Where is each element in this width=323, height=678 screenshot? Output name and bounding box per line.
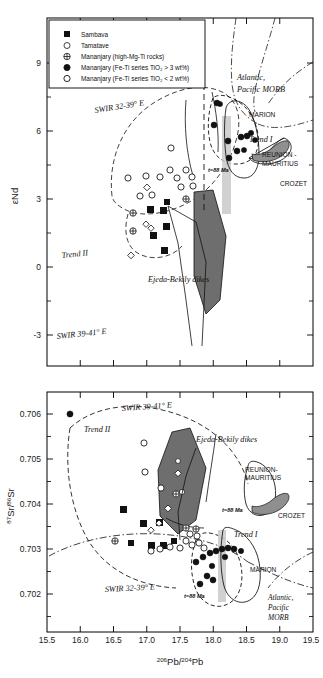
top-y-tick-neg3: -3: [33, 330, 41, 340]
legend-symbol-filled-square: [64, 31, 70, 37]
label-trend-i-top: Trend I: [249, 135, 274, 144]
x-tick-16-0: 16.0: [72, 635, 89, 645]
x-title-main: Pb/: [167, 656, 182, 667]
label-trend-i-bottom: Trend I: [234, 530, 259, 539]
label-reunion-top: REUNION -: [262, 151, 296, 158]
legend-label-mananjary-lo-ti: Mananjary (Fe-Ti series TiO₂ < 2 wt%): [81, 75, 189, 83]
label-crozet-bottom: CROZET: [278, 512, 305, 519]
top-y-tick-9: 9: [36, 58, 41, 68]
bottom-y-tick-706: 0.706: [20, 409, 42, 419]
figure-container: 9 6 3 0 -3 εNd: [0, 0, 323, 678]
label-crozet-top: CROZET: [280, 180, 307, 187]
top-y-tick-6: 6: [36, 126, 41, 136]
top-y-tick-3: 3: [36, 194, 41, 204]
bottom-y-tick-704: 0.704: [20, 499, 42, 509]
bottom-y-tick-702: 0.702: [20, 589, 42, 599]
age-band-top: [222, 116, 231, 214]
bottom-y-mid: Sr/: [5, 504, 16, 517]
label-age-bottom-2: t=88 Ma: [184, 593, 205, 599]
x-tick-19-5: 19.5: [303, 635, 320, 645]
x-title-tail: Pb: [192, 656, 204, 667]
label-atlantic-bottom: Atlantic,: [267, 593, 293, 602]
canvas-background: [0, 0, 323, 678]
legend-symbol-filled-circle: [64, 64, 70, 70]
label-mauritius-bottom: MAURITIUS: [245, 474, 282, 481]
label-marion-bottom: MARION: [250, 566, 277, 573]
label-age-bottom-1: t=88 Ma: [222, 507, 243, 513]
inclusion-marker-bottom-2: [176, 459, 181, 464]
top-y-axis-title: εNd: [9, 188, 20, 204]
x-tick-17-0: 17.0: [138, 635, 155, 645]
legend-box: Sambava Tamatave Mananjary (high-Mg-Ti r…: [49, 20, 205, 88]
label-mauritius-top: MAURITIUS: [262, 160, 299, 167]
legend-label-mananjary-hi-ti: Mananjary (Fe-Ti series TiO₂ > 3 wt%): [81, 64, 189, 72]
x-tick-19-0: 19.0: [271, 635, 288, 645]
x-tick-17-5: 17.5: [172, 635, 189, 645]
x-tick-16-5: 16.5: [105, 635, 122, 645]
legend-label-tamatave: Tamatave: [81, 42, 109, 49]
x-tick-18-0: 18.0: [205, 635, 222, 645]
x-tick-15-5: 15.5: [39, 635, 56, 645]
label-pacific-morb-top: Pacific MORB: [236, 85, 285, 94]
legend-symbol-crossed-circle: [64, 53, 70, 59]
legend-label-sambava: Sambava: [81, 31, 108, 38]
bottom-y-tail: Sr: [5, 488, 16, 498]
label-reunion-bottom: REUNION-: [245, 466, 278, 473]
label-ejeda-top: Ejeda-Bekily dikes: [147, 275, 209, 284]
label-ejeda-bottom: Ejeda-Bekily dikes: [195, 435, 257, 444]
label-pacific-bottom: Pacific: [267, 603, 290, 612]
label-morb-bottom: MORB: [267, 613, 289, 622]
legend-symbol-open-circle: [64, 75, 70, 81]
x-tick-18-5: 18.5: [238, 635, 255, 645]
x-title-sup-204: 204: [181, 656, 192, 663]
isotope-figure: 9 6 3 0 -3 εNd: [0, 0, 323, 678]
age-band-bottom: [218, 530, 226, 602]
label-age-top: t=88 Ma: [208, 167, 229, 173]
label-trend-ii-bottom: Trend II: [84, 425, 112, 434]
x-title-sup-206: 206: [157, 656, 168, 663]
bottom-y-tick-703: 0.703: [20, 544, 42, 554]
bottom-y-tick-705: 0.705: [20, 454, 42, 464]
top-y-tick-0: 0: [36, 262, 41, 272]
legend-symbol-open-diamond: [64, 43, 70, 49]
label-atlantic-top: Atlantic,: [236, 73, 265, 82]
label-marion-top: MARION: [249, 111, 276, 118]
legend-label-mananjary-mgti: Mananjary (high-Mg-Ti rocks): [81, 53, 164, 61]
